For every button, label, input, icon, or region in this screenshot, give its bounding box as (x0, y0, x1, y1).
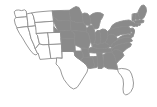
state-ME[interactable]: Maine (138, 5, 147, 20)
state-NM[interactable]: New Mexico (49, 44, 62, 59)
state-MT[interactable]: Montana (32, 11, 54, 23)
state-KS[interactable]: Kansas (61, 39, 75, 52)
state-AZ[interactable]: Arizona (35, 44, 50, 59)
state-OR[interactable]: Oregon (14, 17, 28, 28)
state-WA[interactable]: Washington (15, 10, 28, 18)
state-FL[interactable]: Florida (118, 69, 134, 96)
state-MA[interactable]: Massachusetts (134, 20, 144, 24)
state-CO[interactable]: Colorado (48, 32, 61, 44)
us-map-container: Washington Oregon California Nevada Idah… (0, 0, 157, 107)
state-WY[interactable]: Wyoming (35, 21, 54, 33)
us-map: Washington Oregon California Nevada Idah… (0, 0, 157, 107)
